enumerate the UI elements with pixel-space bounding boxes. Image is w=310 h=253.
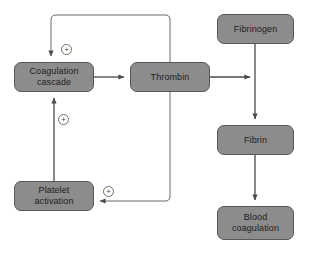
edge-thrombin-to-cascade-feedback (51, 15, 170, 62)
edge-thrombin-to-platelet-feedback (100, 92, 170, 201)
node-blood-coagulation-label: Blood coagulation (230, 212, 281, 234)
node-fibrin: Fibrin (217, 125, 294, 155)
node-coagulation-cascade-label: Coagulation cascade (27, 66, 80, 88)
node-thrombin-label: Thrombin (149, 72, 192, 83)
node-platelet-activation-label: Platelet activation (32, 185, 75, 207)
coagulation-cascade-diagram: Coagulation cascade Thrombin Platelet ac… (0, 0, 310, 253)
plus-sign-icon-cascade-bottom: + (58, 114, 69, 125)
plus-sign-icon-cascade-bottom-symbol: + (61, 115, 66, 124)
node-platelet-activation: Platelet activation (14, 181, 94, 211)
node-fibrinogen-label: Fibrinogen (232, 24, 280, 35)
node-coagulation-cascade: Coagulation cascade (14, 62, 94, 92)
node-blood-coagulation: Blood coagulation (217, 206, 294, 240)
plus-sign-icon-cascade-top: + (61, 44, 72, 55)
node-fibrin-label: Fibrin (242, 135, 269, 146)
plus-sign-icon-platelet-symbol: + (106, 187, 111, 196)
node-fibrinogen: Fibrinogen (217, 14, 294, 44)
node-thrombin: Thrombin (130, 62, 210, 92)
plus-sign-icon-cascade-top-symbol: + (64, 45, 69, 54)
plus-sign-icon-platelet: + (103, 186, 114, 197)
